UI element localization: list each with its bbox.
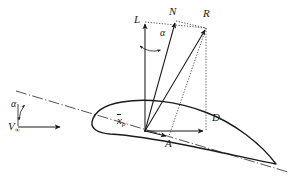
label-xp-subscript: p: [122, 120, 126, 128]
label-freestream-velocity: V∞: [8, 121, 20, 134]
label-normal-force: N: [169, 6, 176, 17]
normal-vector: [145, 23, 175, 131]
airfoil-outline: [92, 100, 276, 164]
alpha-angle-left: [19, 105, 25, 120]
axial-vector: [145, 131, 166, 136]
label-drag: D: [212, 112, 220, 123]
label-lift: L: [134, 14, 140, 25]
label-vinf-subscript: ∞: [15, 126, 20, 134]
alpha-angle-top: [140, 46, 161, 51]
center-of-pressure-marker: [144, 130, 146, 132]
label-alpha-top: α: [160, 28, 165, 38]
label-resultant-force: R: [203, 8, 210, 19]
label-center-of-pressure: xp: [117, 114, 125, 128]
resultant-vector: [145, 30, 205, 131]
label-axial-force: A: [165, 138, 172, 149]
label-alpha-left: α: [11, 99, 16, 109]
label-xp-base: x: [117, 114, 122, 126]
construction-lines: [145, 21, 206, 136]
label-vinf-base: V: [8, 120, 15, 132]
diagram-canvas: [0, 0, 289, 178]
aerodynamic-force-diagram: L N R α D A xp α V∞: [0, 0, 289, 178]
freestream-velocity-arrow: [18, 104, 60, 127]
